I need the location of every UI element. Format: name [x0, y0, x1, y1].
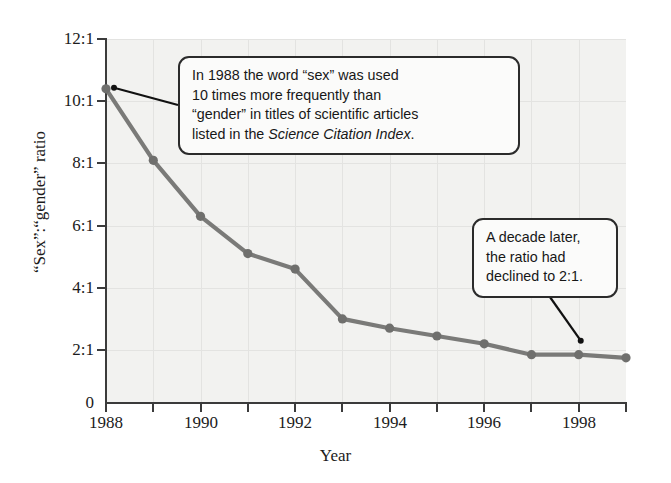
series-data-point [621, 353, 630, 362]
series-data-point [385, 324, 394, 333]
series-data-point [338, 314, 347, 323]
series-data-point [480, 339, 489, 348]
series-data-point [243, 249, 252, 258]
leader-line-sex [114, 88, 178, 105]
callout-sex-line-3: “gender” in titles of scientific article… [192, 105, 507, 125]
series-data-point [196, 212, 205, 221]
annotation-callout-sex: In 1988 the word “sex” was used 10 times… [178, 56, 520, 155]
series-data-point [291, 265, 300, 274]
callout-decade-line-1: A decade later, [486, 228, 605, 248]
callout-sex-period: . [411, 126, 415, 142]
callout-sex-line-4: listed in the Science Citation Index. [192, 125, 507, 145]
chart-figure: 12:110:18:16:14:12:10 198819901992199419… [0, 0, 671, 483]
series-data-point [149, 156, 158, 165]
callout-sex-line-2: 10 times more frequently than [192, 86, 507, 106]
leader-line-decade-arrowhead [578, 338, 584, 344]
callout-sex-line-1: In 1988 the word “sex” was used [192, 66, 507, 86]
x-axis-title: Year [0, 446, 671, 466]
series-data-point [101, 84, 110, 93]
series-data-point [527, 350, 536, 359]
annotation-callout-decade: A decade later, the ratio had declined t… [472, 218, 618, 298]
callout-sex-italic-title: Science Citation Index [268, 126, 410, 142]
callout-decade-line-3: declined to 2:1. [486, 267, 605, 287]
leader-line-decade [545, 290, 581, 341]
series-data-point [574, 350, 583, 359]
callout-decade-line-2: the ratio had [486, 248, 605, 268]
leader-line-sex-arrowhead [111, 85, 117, 91]
y-axis-title: “Sex”:“gender” ratio [30, 52, 50, 352]
series-data-point [432, 331, 441, 340]
callout-sex-line-4-text: listed in the [192, 126, 268, 142]
